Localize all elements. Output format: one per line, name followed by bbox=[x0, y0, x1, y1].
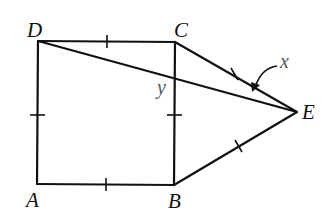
segment-bc bbox=[174, 42, 175, 185]
segment-da bbox=[37, 41, 38, 184]
label-e: E bbox=[302, 102, 315, 123]
label-y: y bbox=[157, 77, 166, 97]
segment-de bbox=[38, 41, 297, 112]
label-d: D bbox=[27, 20, 42, 41]
diagram-lines bbox=[0, 0, 334, 217]
geometry-diagram: D C A B E x y bbox=[0, 0, 334, 217]
label-c: C bbox=[174, 20, 188, 41]
label-a: A bbox=[26, 190, 39, 211]
label-x: x bbox=[280, 51, 289, 71]
label-b: B bbox=[168, 191, 181, 212]
angle-x-arrow bbox=[251, 66, 277, 92]
tick-marks bbox=[30, 35, 242, 191]
segment-be bbox=[174, 112, 297, 185]
